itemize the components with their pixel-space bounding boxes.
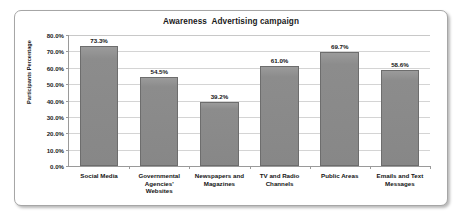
bar-group: 73.3%Social Media [69,35,129,166]
bar-group: 39.2%Newspapers and Magazines [189,35,249,166]
bar-data-label: 69.7% [310,43,370,50]
x-axis-category-label: Social Media [71,172,126,180]
y-axis-tick-label: 40.0% [47,97,64,104]
bar[interactable] [381,70,420,166]
bar[interactable] [260,66,299,166]
y-axis-tick-label: 60.0% [47,64,64,71]
x-axis-category-label: Governmental Agencies' Websites [132,172,187,195]
bar-data-label: 39.2% [189,93,249,100]
chart-title: Awareness Advertising campaign [15,17,447,26]
bar-data-label: 73.3% [69,37,129,44]
y-axis-tick-label: 10.0% [47,146,64,153]
x-axis-tick-mark [370,166,371,169]
x-axis-tick-mark [250,166,251,169]
x-axis-category-label: Newspapers and Magazines [192,172,247,187]
chart-container: Awareness Advertising campaign Participa… [14,10,448,206]
plot-inner: 0.0%10.0%20.0%30.0%40.0%50.0%60.0%70.0%8… [69,35,430,166]
x-axis-tick-mark [310,166,311,169]
bar[interactable] [140,77,179,166]
x-axis-tick-mark [430,166,431,169]
y-axis-tick-label: 30.0% [47,113,64,120]
x-axis-category-label: Public Areas [312,172,367,180]
y-axis-tick-label: 70.0% [47,48,64,55]
bar-data-label: 61.0% [250,57,310,64]
bar-group: 54.5%Governmental Agencies' Websites [129,35,189,166]
bar-group: 58.6%Emails and Text Messages [370,35,430,166]
y-axis-tick-mark [66,166,69,167]
x-axis-tick-mark [129,166,130,169]
bar[interactable] [200,102,239,166]
x-axis-category-label: TV and Radio Channels [252,172,307,187]
bar-data-label: 54.5% [129,68,189,75]
bar[interactable] [320,52,359,166]
y-axis-tick-label: 0.0% [50,163,64,170]
x-axis-category-label: Emails and Text Messages [372,172,427,187]
plot-area: 0.0%10.0%20.0%30.0%40.0%50.0%60.0%70.0%8… [68,35,430,167]
bar[interactable] [80,46,119,166]
bar-group: 61.0%TV and Radio Channels [250,35,310,166]
y-axis-title: Participants Percentage [26,22,32,122]
y-axis-tick-label: 50.0% [47,81,64,88]
y-axis-tick-label: 20.0% [47,130,64,137]
bar-data-label: 58.6% [370,61,430,68]
bar-group: 69.7%Public Areas [310,35,370,166]
y-axis-tick-label: 80.0% [47,32,64,39]
x-axis-tick-mark [189,166,190,169]
